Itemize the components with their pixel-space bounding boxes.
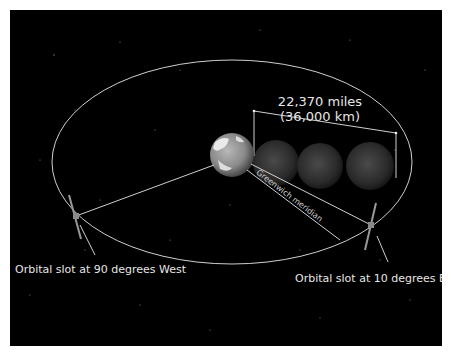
distance-label: 22,370 miles (36,000 km) (265, 94, 375, 124)
satellite-west-icon (69, 195, 81, 239)
distance-km: (36,000 km) (265, 109, 375, 124)
geostationary-orbit-diagram: 22,370 miles (36,000 km) Greenwich merid… (10, 10, 442, 346)
slot-east-label: Orbital slot at 10 degrees East (295, 272, 442, 285)
distance-miles: 22,370 miles (265, 94, 375, 109)
slot-west-label: Orbital slot at 90 degrees West (15, 263, 186, 276)
diagram-graphics (10, 10, 442, 346)
satellite-east-icon (365, 203, 376, 250)
